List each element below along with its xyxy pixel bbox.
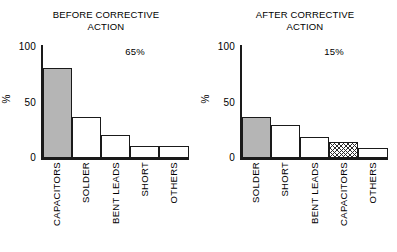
y-tick-label-0-after: 0 xyxy=(229,153,235,163)
bar-short-before xyxy=(130,146,159,158)
x-label-short-after: SHORT xyxy=(281,162,291,197)
pareto-chart-figure: BEFORE CORRECTIVE ACTION 65% 100 50 0 % xyxy=(0,0,397,252)
x-label-short-before: SHORT xyxy=(140,162,150,197)
x-label-solder-after: SOLDER xyxy=(251,162,261,203)
cat-slot: SOLDER xyxy=(242,162,271,250)
y-axis-label-after: % xyxy=(201,95,211,104)
x-label-solder-before: SOLDER xyxy=(82,162,92,203)
chart-title-after-line1: AFTER CORRECTIVE xyxy=(256,9,354,20)
chart-title-after-line2: ACTION xyxy=(217,21,393,33)
cat-slot: CAPACITORS xyxy=(329,162,358,250)
bar-slot xyxy=(72,47,101,158)
x-category-labels-before: CAPACITORS SOLDER BENT LEADS SHORT OTHER… xyxy=(43,162,189,250)
bar-group-after xyxy=(242,47,388,158)
x-label-others-before: OTHERS xyxy=(169,162,179,203)
bar-slot xyxy=(271,47,300,158)
bar-slot xyxy=(358,47,387,158)
bar-slot xyxy=(130,47,159,158)
y-tick-label-100-before: 100 xyxy=(19,42,36,52)
bar-bent-leads-after xyxy=(300,137,329,158)
y-tick-label-100-after: 100 xyxy=(218,42,235,52)
plot-area-before: 100 50 0 % xyxy=(41,47,189,158)
cat-slot: OTHERS xyxy=(358,162,387,250)
bar-solder-after xyxy=(242,117,271,158)
bar-group-before xyxy=(43,47,189,158)
x-label-others-after: OTHERS xyxy=(368,162,378,203)
chart-title-before-line1: BEFORE CORRECTIVE xyxy=(53,9,160,20)
plot-area-after: 100 50 0 % xyxy=(240,47,388,158)
bar-slot xyxy=(329,47,358,158)
cat-slot: SOLDER xyxy=(72,162,101,250)
x-category-labels-after: SOLDER SHORT BENT LEADS CAPACITORS OTHER… xyxy=(242,162,388,250)
bar-others-before xyxy=(159,146,188,158)
chart-panel-after: AFTER CORRECTIVE ACTION 15% 100 50 0 % xyxy=(199,0,397,252)
cat-slot: SHORT xyxy=(271,162,300,250)
x-axis-before xyxy=(41,158,189,160)
bar-capacitors-after xyxy=(329,142,358,158)
x-label-bent-leads-after: BENT LEADS xyxy=(310,162,320,224)
y-tick-label-0-before: 0 xyxy=(30,153,36,163)
cat-slot: CAPACITORS xyxy=(43,162,72,250)
cat-slot: BENT LEADS xyxy=(300,162,329,250)
x-label-bent-leads-before: BENT LEADS xyxy=(111,162,121,224)
bar-others-after xyxy=(358,148,387,158)
bar-slot xyxy=(300,47,329,158)
x-label-capacitors-before: CAPACITORS xyxy=(52,162,62,226)
bar-slot xyxy=(101,47,130,158)
chart-title-before: BEFORE CORRECTIVE ACTION xyxy=(18,9,194,32)
bar-bent-leads-before xyxy=(101,135,130,158)
bar-solder-before xyxy=(72,117,101,158)
bar-slot xyxy=(159,47,188,158)
cat-slot: SHORT xyxy=(130,162,159,250)
cat-slot: BENT LEADS xyxy=(101,162,130,250)
y-tick-label-50-after: 50 xyxy=(223,98,235,108)
x-axis-after xyxy=(240,158,388,160)
chart-title-after: AFTER CORRECTIVE ACTION xyxy=(217,9,393,32)
x-label-capacitors-after: CAPACITORS xyxy=(339,162,349,226)
bar-short-after xyxy=(271,125,300,158)
bar-slot xyxy=(242,47,271,158)
y-axis-label-before: % xyxy=(2,95,12,104)
cat-slot: OTHERS xyxy=(159,162,188,250)
chart-panel-before: BEFORE CORRECTIVE ACTION 65% 100 50 0 % xyxy=(0,0,198,252)
chart-title-before-line2: ACTION xyxy=(18,21,194,33)
y-tick-label-50-before: 50 xyxy=(24,98,36,108)
bar-slot xyxy=(43,47,72,158)
bar-capacitors-before xyxy=(43,68,72,158)
